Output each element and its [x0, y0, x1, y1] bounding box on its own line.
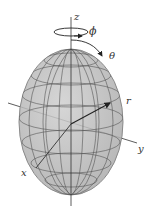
x-axis-label: x — [21, 167, 27, 178]
phi-label: ϕ — [89, 25, 97, 38]
z-axis-label: z — [73, 11, 80, 22]
theta-label: θ — [109, 50, 115, 61]
r-label: r — [126, 95, 132, 106]
ellipsoid-diagram: z ϕ θ r y x — [0, 0, 155, 214]
y-axis-label: y — [137, 143, 144, 154]
